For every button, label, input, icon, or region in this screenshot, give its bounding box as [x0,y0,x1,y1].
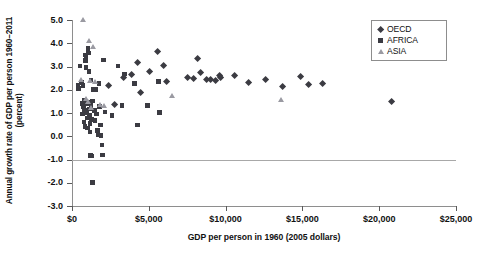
x-tick-mark [302,206,303,211]
y-tick-label: 0.0 [27,132,63,141]
y-tick-mark [67,136,72,137]
legend-item-africa: AFRICA [376,35,442,46]
square-marker-icon [376,36,386,46]
x-tick-mark [149,206,150,211]
y-tick-mark [67,160,72,161]
x-tick-mark [226,206,227,211]
y-axis-line [72,20,73,206]
y-axis-title: Annual growth rate of GDP per person 196… [0,3,30,218]
y-tick-mark [67,90,72,91]
x-tick-label: $10,000 [194,214,258,224]
x-tick-label: $15,000 [270,214,334,224]
y-tick-mark [67,43,72,44]
chart-legend: OECD AFRICA ASIA [371,20,447,61]
legend-label-asia: ASIA [386,47,406,56]
y-tick-mark [67,20,72,21]
triangle-marker-icon [376,47,386,57]
legend-item-asia: ASIA [376,46,442,57]
x-tick-label: $0 [40,214,104,224]
diamond-marker-icon [376,25,386,35]
y-tick-mark [67,183,72,184]
x-tick-mark [72,206,73,211]
y-tick-mark [67,113,72,114]
scatter-chart-figure: Annual growth rate of GDP per person 196… [0,0,496,253]
x-axis-title: GDP per person in 1960 (2005 dollars) [72,232,456,242]
y-tick-label: 3.0 [27,62,63,71]
y-tick-label: 4.0 [27,39,63,48]
x-tick-label: $5,000 [117,214,181,224]
x-tick-label: $20,000 [347,214,411,224]
x-tick-mark [379,206,380,211]
y-tick-label: -3.0 [27,202,63,211]
zero-reference-line [72,160,456,161]
y-tick-label: 1.0 [27,109,63,118]
legend-item-oecd: OECD [376,24,442,35]
x-axis-line [72,206,456,207]
y-tick-label: -1.0 [27,155,63,164]
x-tick-mark [456,206,457,211]
y-tick-label: 5.0 [27,16,63,25]
x-tick-label: $25,000 [424,214,488,224]
y-tick-mark [67,67,72,68]
legend-label-oecd: OECD [386,25,411,34]
y-tick-label: -2.0 [27,178,63,187]
legend-label-africa: AFRICA [386,36,418,45]
y-tick-label: 2.0 [27,85,63,94]
